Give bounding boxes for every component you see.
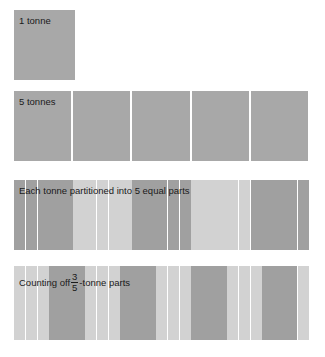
cell-three-fifths-19: [227, 266, 238, 340]
cell-five-tonnes-5: [251, 91, 308, 161]
figure-canvas: 1 tonne 5 tonnes Each tonne partitioned …: [0, 0, 325, 357]
cell-fifths-18: [215, 180, 226, 250]
cell-fifths-21: [251, 180, 262, 250]
cell-three-fifths-7: [85, 266, 96, 340]
row-one-tonne: [14, 10, 75, 80]
cell-fifths-13: [156, 180, 167, 250]
cell-three-fifths-2: [26, 266, 37, 340]
cell-fifths-19: [227, 180, 238, 250]
cell-three-fifths-4: [49, 266, 60, 340]
cell-three-fifths-25: [298, 266, 309, 340]
cell-fifths-16: [191, 180, 202, 250]
cell-fifths-12: [144, 180, 155, 250]
cell-three-fifths-9: [109, 266, 120, 340]
cell-fifths-14: [168, 180, 179, 250]
cell-fifths-5: [61, 180, 72, 250]
row-five-tonnes: [14, 91, 310, 161]
cell-three-fifths-14: [168, 266, 179, 340]
cell-fifths-15: [180, 180, 191, 250]
cell-five-tonnes-2: [73, 91, 130, 161]
row-fifths: [14, 180, 310, 250]
cell-fifths-22: [262, 180, 273, 250]
cell-five-tonnes-1: [14, 91, 71, 161]
cell-fifths-20: [239, 180, 250, 250]
cell-fifths-7: [85, 180, 96, 250]
cell-three-fifths-5: [61, 266, 72, 340]
cell-fifths-3: [38, 180, 49, 250]
cell-five-tonnes-4: [192, 91, 249, 161]
cell-three-fifths-15: [180, 266, 191, 340]
row-three-fifths: [14, 266, 310, 340]
cell-three-fifths-21: [251, 266, 262, 340]
cell-three-fifths-12: [144, 266, 155, 340]
cell-fifths-23: [274, 180, 285, 250]
cell-three-fifths-10: [120, 266, 131, 340]
cell-fifths-25: [298, 180, 309, 250]
cell-three-fifths-20: [239, 266, 250, 340]
cell-three-fifths-23: [274, 266, 285, 340]
cell-fifths-1: [14, 180, 25, 250]
cell-three-fifths-18: [215, 266, 226, 340]
cell-fifths-9: [109, 180, 120, 250]
cell-fifths-11: [132, 180, 143, 250]
cell-fifths-2: [26, 180, 37, 250]
cell-fifths-17: [203, 180, 214, 250]
cell-five-tonnes-3: [132, 91, 189, 161]
cell-three-fifths-22: [262, 266, 273, 340]
cell-three-fifths-24: [286, 266, 297, 340]
cell-three-fifths-3: [38, 266, 49, 340]
cell-three-fifths-13: [156, 266, 167, 340]
cell-three-fifths-17: [203, 266, 214, 340]
cell-fifths-10: [120, 180, 131, 250]
cell-three-fifths-8: [97, 266, 108, 340]
cell-three-fifths-1: [14, 266, 25, 340]
cell-one-tonne-1: [14, 10, 75, 80]
cell-three-fifths-16: [191, 266, 202, 340]
cell-three-fifths-6: [73, 266, 84, 340]
cell-fifths-6: [73, 180, 84, 250]
cell-three-fifths-11: [132, 266, 143, 340]
cell-fifths-24: [286, 180, 297, 250]
cell-fifths-4: [49, 180, 60, 250]
cell-fifths-8: [97, 180, 108, 250]
